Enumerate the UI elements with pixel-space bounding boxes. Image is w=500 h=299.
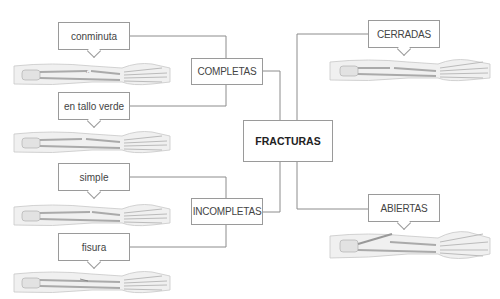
label-abiertas: ABIERTAS [381,203,428,214]
arm-illustration-simple [12,199,172,231]
svg-text:∴: ∴ [86,68,89,74]
arm-illustration-tallo-verde [12,128,172,158]
callout-fisura: fisura [58,233,130,261]
category-completas: COMPLETAS [191,58,263,85]
label-cerradas: CERRADAS [377,29,431,40]
label-fisura: fisura [82,242,106,253]
arm-illustration-cerradas [328,56,493,86]
arm-illustration-conminuta: ∴ [12,58,172,90]
category-incompletas: INCOMPLETAS [191,198,263,225]
arm-illustration-abiertas [328,228,493,264]
callout-cerradas: CERRADAS [368,20,440,48]
callout-en-tallo-verde: en tallo verde [58,92,130,120]
callout-conminuta: conminuta [58,22,130,50]
label-fracturas: FRACTURAS [255,135,320,147]
label-conminuta: conminuta [71,31,117,42]
callout-simple: simple [58,163,130,191]
label-simple: simple [80,172,109,183]
arm-illustration-fisura [12,266,172,298]
label-incompletas: INCOMPLETAS [193,206,262,217]
label-en-tallo-verde: en tallo verde [64,101,124,112]
main-box-fracturas: FRACTURAS [243,120,333,162]
label-completas: COMPLETAS [197,66,256,77]
callout-abiertas: ABIERTAS [368,194,440,222]
